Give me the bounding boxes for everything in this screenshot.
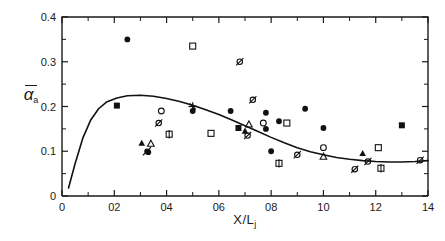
- data-point: [208, 130, 214, 136]
- series-slashed-circle: [155, 58, 424, 173]
- x-tick-label: 02: [108, 201, 120, 213]
- fitted-curve: [69, 95, 428, 188]
- series-open-square: [190, 43, 382, 151]
- data-point: [158, 108, 164, 114]
- y-axis-label-symbol: α: [24, 86, 34, 103]
- data-point: [321, 125, 327, 131]
- x-tick-label: 0: [59, 201, 65, 213]
- y-tick-label: 0.1: [41, 145, 56, 157]
- data-point: [190, 43, 196, 49]
- data-point: [364, 158, 371, 165]
- y-axis-label: αa: [13, 75, 49, 115]
- data-point: [263, 110, 269, 116]
- data-points: [114, 36, 424, 172]
- data-point: [302, 106, 308, 112]
- data-point: [359, 150, 366, 156]
- series-crossed-square: [166, 130, 384, 172]
- data-point: [294, 151, 301, 158]
- x-tick-label: 04: [160, 201, 172, 213]
- x-axis-label: X/Lj: [190, 212, 300, 234]
- data-point: [236, 58, 243, 65]
- data-point: [235, 125, 241, 131]
- series-filled-square: [114, 103, 405, 131]
- axis-tick-labels: 00204060810121400.10.20.30.4: [41, 11, 434, 213]
- y-tick-label: 0.3: [41, 56, 56, 68]
- data-point: [351, 166, 358, 173]
- series-open-circle: [158, 108, 326, 150]
- data-point: [166, 130, 172, 138]
- series-star-cross: [189, 102, 197, 110]
- chart-figure: 00204060810121400.10.20.30.4 αa X/Lj: [0, 0, 445, 241]
- data-point: [124, 36, 130, 42]
- data-point: [268, 148, 274, 154]
- x-tick-label: 12: [370, 201, 382, 213]
- data-point: [148, 140, 155, 146]
- data-point: [138, 140, 145, 146]
- x-tick-label: 14: [422, 201, 434, 213]
- data-point: [321, 145, 327, 151]
- data-point: [228, 108, 234, 114]
- data-point: [249, 96, 256, 103]
- x-tick-label: 10: [317, 201, 329, 213]
- y-tick-label: 0: [50, 190, 56, 202]
- data-point: [399, 122, 405, 128]
- y-axis-label-subscript: a: [33, 95, 38, 105]
- data-point: [263, 126, 269, 132]
- x-axis-label-text: X/L: [233, 212, 254, 227]
- data-point: [246, 121, 253, 127]
- data-point: [284, 120, 290, 126]
- data-point: [114, 103, 120, 109]
- data-point: [155, 119, 162, 126]
- data-point: [189, 102, 197, 110]
- data-point: [378, 164, 384, 172]
- data-point: [276, 118, 282, 124]
- fitted-curve-path: [69, 95, 428, 188]
- x-axis-label-subscript: j: [254, 219, 257, 229]
- data-point: [375, 145, 381, 151]
- y-tick-label: 0.4: [41, 11, 56, 23]
- data-point: [276, 159, 282, 167]
- scatter-plot: 00204060810121400.10.20.30.4: [0, 0, 445, 241]
- data-point: [417, 157, 424, 164]
- overbar: [25, 85, 37, 86]
- data-point: [260, 120, 266, 126]
